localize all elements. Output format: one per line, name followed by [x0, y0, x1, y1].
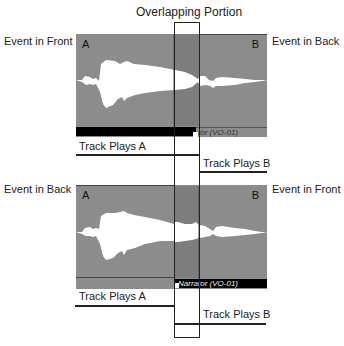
overlap-box-left — [174, 22, 175, 338]
overlap-box-right — [199, 22, 200, 338]
bottom-clip-name: Narrator (VO-01) — [178, 279, 238, 288]
overlap-box-bottom — [174, 337, 200, 338]
bottom-clip-handle[interactable] — [175, 283, 179, 288]
bottom-clip-bar-black: Narrator (VO-01) — [174, 279, 267, 288]
bottom-track-b-label: Track Plays B — [203, 308, 270, 320]
bottom-waveform — [0, 0, 344, 346]
bottom-track-a-label: Track Plays A — [79, 290, 146, 302]
overlap-box-top — [174, 22, 200, 23]
bottom-track-b-line — [174, 323, 266, 325]
bottom-track-a-line — [75, 305, 174, 307]
